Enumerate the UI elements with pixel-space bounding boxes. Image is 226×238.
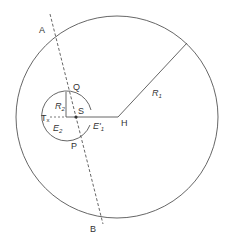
label-e1-prime: E'1 — [93, 121, 104, 132]
label-a: A — [39, 25, 45, 35]
label-e2: E2 — [53, 123, 63, 134]
label-r1: R1 — [152, 88, 162, 99]
diagram-canvas: A B Q P S H Tx R1 R2 E2 E'1 — [0, 0, 226, 238]
label-h: H — [121, 118, 128, 128]
label-s: S — [78, 106, 84, 116]
radius-r1-line — [118, 43, 187, 117]
dashed-line-ab — [50, 14, 103, 224]
label-p: P — [71, 141, 77, 151]
label-r2: R2 — [55, 101, 66, 112]
label-b: B — [90, 224, 96, 234]
label-t: Tx — [41, 113, 50, 123]
label-q: Q — [73, 82, 80, 92]
